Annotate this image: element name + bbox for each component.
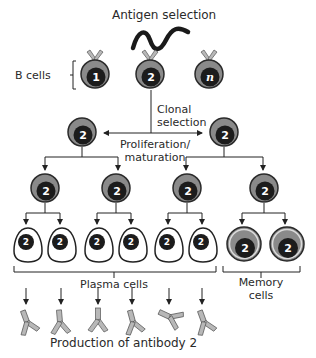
svg-text:2: 2 [241, 242, 249, 255]
svg-text:2: 2 [198, 237, 204, 247]
svg-text:2: 2 [57, 237, 63, 247]
svg-text:2: 2 [221, 129, 229, 142]
svg-text:1: 1 [92, 71, 100, 84]
memory-cells-label-2: cells [226, 289, 296, 302]
svg-text:2: 2 [284, 242, 292, 255]
title: Antigen selection [112, 9, 216, 22]
clonal-selection-label-2: selection [157, 116, 206, 129]
b-cells-bracket [70, 61, 76, 89]
svg-text:2: 2 [79, 129, 87, 142]
svg-text:2: 2 [164, 237, 170, 247]
b-cells-label: B cells [15, 69, 51, 82]
svg-text:2: 2 [42, 185, 50, 198]
antibody-1 [13, 307, 40, 336]
antibody-2 [49, 309, 71, 335]
svg-text:2: 2 [261, 185, 269, 198]
antibody-4 [120, 308, 146, 336]
antibody-5 [155, 303, 185, 331]
clonal-selection-diagram: 1 2 n 2 2 2 2 2 2 [0, 0, 316, 358]
svg-text:2: 2 [113, 185, 121, 198]
plasma-cells-bracket [14, 266, 216, 278]
svg-text:2: 2 [94, 237, 100, 247]
antigen-icon [133, 29, 188, 49]
proliferation-label-2: maturation [110, 151, 200, 164]
svg-text:2: 2 [147, 71, 155, 84]
antibody-6 [190, 307, 217, 336]
svg-text:2: 2 [184, 185, 192, 198]
svg-text:n: n [206, 71, 214, 84]
plasma-cells-label: Plasma cells [74, 278, 154, 291]
production-label: Production of antibody 2 [50, 337, 197, 350]
proliferation-label-1: Proliferation/ [110, 138, 200, 151]
memory-cells-label-1: Memory [226, 276, 296, 289]
svg-text:2: 2 [128, 237, 134, 247]
clonal-selection-label-1: Clonal [157, 103, 191, 116]
svg-text:2: 2 [23, 237, 29, 247]
antibody-3 [88, 308, 108, 332]
